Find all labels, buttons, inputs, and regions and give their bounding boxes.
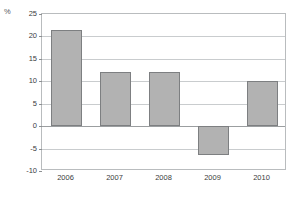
bar — [247, 81, 278, 126]
x-axis-tick-labels: 20062007200820092010 — [41, 173, 286, 189]
y-tick-label: 5 — [33, 98, 37, 107]
x-tick-label: 2007 — [106, 173, 123, 182]
x-tick-label: 2010 — [253, 173, 270, 182]
plot-area — [41, 13, 286, 170]
x-tick-label: 2008 — [155, 173, 172, 182]
y-axis-tick-labels: 2520151050-5-10 — [0, 0, 40, 197]
y-tick-label: 10 — [29, 76, 37, 85]
y-tick-label: 25 — [29, 9, 37, 18]
bar — [198, 126, 229, 155]
x-tick-label: 2009 — [204, 173, 221, 182]
bar-chart: % 2520151050-5-10 20062007200820092010 — [0, 0, 302, 197]
y-tick-label: 15 — [29, 53, 37, 62]
bar — [100, 72, 131, 126]
y-tick-label: -10 — [26, 166, 37, 175]
y-tick-label: 0 — [33, 121, 37, 130]
bar — [149, 72, 180, 126]
x-tick-label: 2006 — [57, 173, 74, 182]
y-tick-label: -5 — [30, 143, 37, 152]
y-tick-label: 20 — [29, 31, 37, 40]
bars-group — [42, 14, 285, 169]
y-tick-mark — [39, 171, 42, 172]
bar — [51, 30, 82, 126]
